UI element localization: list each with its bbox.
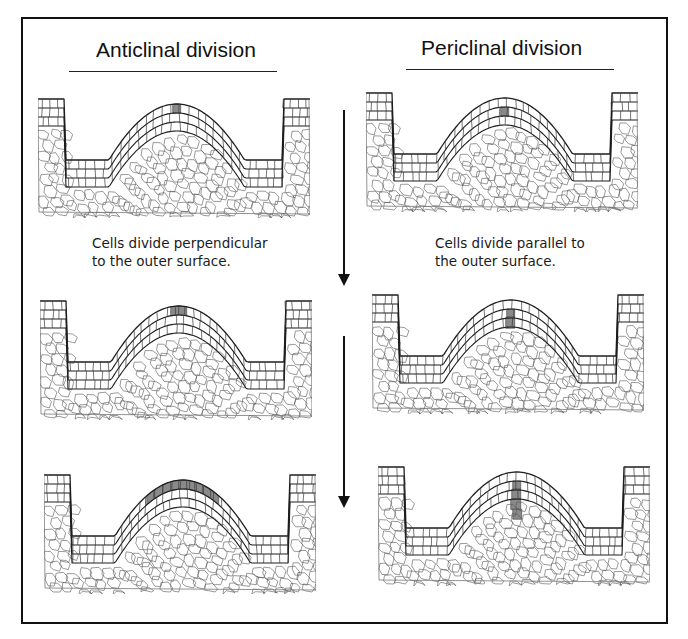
caption-anticlinal-line1: Cells divide perpendicular <box>92 234 268 252</box>
caption-anticlinal: Cells divide perpendicular to the outer … <box>92 234 268 270</box>
heading-underline-anticlinal <box>69 71 277 72</box>
caption-periclinal-line1: Cells divide parallel to <box>435 234 585 252</box>
tissue-panel-anticlinal-1 <box>38 94 310 218</box>
heading-anticlinal: Anticlinal division <box>96 38 256 62</box>
caption-periclinal-line2: the outer surface. <box>435 252 585 270</box>
tissue-panel-periclinal-1 <box>366 88 638 212</box>
heading-periclinal: Periclinal division <box>421 36 582 60</box>
tissue-panel-anticlinal-2 <box>40 296 312 420</box>
caption-periclinal: Cells divide parallel to the outer surfa… <box>435 234 585 270</box>
down-arrow-icon-1 <box>335 108 353 288</box>
tissue-panel-periclinal-3 <box>378 462 650 586</box>
tissue-panel-periclinal-2 <box>372 290 644 414</box>
heading-underline-periclinal <box>406 69 614 70</box>
tissue-panel-anticlinal-3 <box>44 470 316 594</box>
down-arrow-icon-2 <box>335 334 353 510</box>
caption-anticlinal-line2: to the outer surface. <box>92 252 268 270</box>
